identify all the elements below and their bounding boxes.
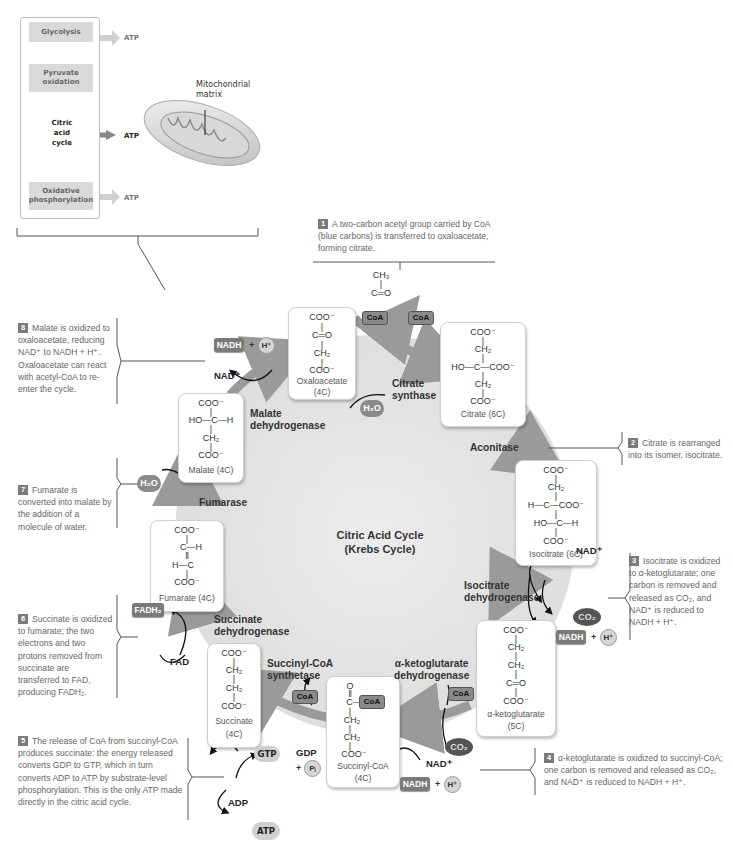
mitochondrial-matrix-label: Mitochondrial matrix	[196, 80, 266, 100]
step-number-badge: 1	[318, 219, 328, 229]
enzyme-citrate-synthase: Citrate synthase	[392, 378, 436, 402]
enzyme-line: synthetase	[267, 670, 333, 682]
nad-label: NAD⁺	[576, 545, 602, 556]
note-text: Malate is oxidized to oxaloacetate, redu…	[18, 323, 110, 394]
nad-label: NAD⁺	[214, 370, 240, 381]
note-text: The release of CoA from succinyl-CoA pro…	[18, 736, 182, 807]
plus-sign: +	[435, 779, 440, 789]
note-3: 3Isocitrate is oxidized to α-ketoglutara…	[629, 555, 729, 628]
chem-line: COO⁻	[179, 450, 243, 460]
chem-line: COO⁻	[309, 749, 399, 759]
overview-cycle-label: Citric acid cycle	[48, 118, 76, 148]
note-4: 4α-ketoglutarate is oxidized to succinyl…	[544, 752, 729, 789]
h-ion-badge: H⁺	[444, 776, 461, 793]
nadh-badge: NADH	[214, 338, 244, 352]
nadh-badge: NADH	[556, 630, 586, 644]
nad-label: NAD⁺	[426, 758, 452, 769]
released-coa-tag: CoA	[408, 311, 434, 325]
h-ion-badge: H⁺	[258, 337, 275, 354]
molecule-name: Oxaloacetate	[289, 376, 355, 387]
molecule-name: Succinyl-CoA	[327, 761, 399, 772]
chem-line: COO⁻	[208, 701, 260, 711]
step-number-badge: 7	[18, 485, 28, 495]
step-number-badge: 6	[18, 614, 28, 624]
atp-label: ATP	[124, 34, 139, 42]
note-1: 1A two-carbon acetyl group carried by Co…	[318, 218, 498, 255]
enzyme-akg-dehydrogenase: α-ketoglutarate dehydrogenase	[394, 658, 469, 682]
phosphate-badge: Pᵢ	[304, 760, 321, 777]
molecule-malate: COO⁻ | HO—C—H | CH₂ | COO⁻ Malate (4C)	[178, 393, 244, 483]
atp-label: ATP	[257, 826, 275, 836]
atp-burst-icon: ATP	[119, 29, 144, 46]
overview-glycolysis: Glycolysis	[29, 22, 93, 42]
enzyme-line: synthase	[392, 390, 436, 402]
coa-tag: CoA	[448, 687, 474, 701]
note-text: Succinate is oxidized to fumarate; the t…	[18, 614, 112, 697]
enzyme-line: Citrate	[392, 378, 436, 390]
water-badge: H₂O	[137, 475, 161, 492]
chem-line: C═O	[289, 330, 355, 340]
cycle-label-line: acid	[48, 128, 76, 138]
cycle-title: Citric Acid Cycle (Krebs Cycle)	[310, 528, 450, 556]
step-number-badge: 5	[18, 736, 28, 746]
note-text: α-ketoglutarate is oxidized to succinyl-…	[544, 753, 723, 787]
enzyme-line: Aconitase	[470, 442, 519, 454]
step-number-badge: 2	[628, 438, 638, 448]
enzyme-isocitrate-dehydrogenase: Isocitrate dehydrogenase	[464, 580, 539, 604]
molecule-succinate: COO⁻ | CH₂ | CH₂ | COO⁻ Succinate (4C)	[207, 643, 261, 748]
plus-sign: +	[591, 632, 596, 642]
molecule-citrate: COO⁻ | CH₂ | HO—C—COO⁻ | CH₂ | COO⁻ Citr…	[440, 322, 526, 427]
step-number-badge: 4	[544, 753, 554, 763]
molecule-alpha-ketoglutarate: COO⁻ | CH₂ | CH₂ | C═O | COO⁻ α-ketoglut…	[476, 620, 556, 737]
note-text: Fumarate is converted into malate by the…	[18, 485, 112, 532]
enzyme-succinate-dehydrogenase: Succinate dehydrogenase	[214, 614, 289, 638]
fadh2-badge: FADH₂	[132, 603, 164, 617]
h-ion-badge: H⁺	[600, 629, 617, 646]
atp-label: ATP	[124, 194, 139, 202]
note-text: Isocitrate is oxidized to α-ketoglutarat…	[629, 556, 720, 627]
enzyme-line: α-ketoglutarate	[394, 658, 469, 670]
note-5: 5The release of CoA from succinyl-CoA pr…	[18, 735, 183, 808]
adp-label: ADP	[228, 797, 248, 808]
molecule-name: Malate (4C)	[179, 465, 243, 476]
molecule-fumarate: COO⁻ | C—H ‖ H—C | COO⁻ Fumarate (4C)	[150, 520, 224, 612]
enzyme-line: Succinate	[214, 614, 289, 626]
water-badge: H₂O	[360, 400, 384, 417]
cycle-title-line2: (Krebs Cycle)	[310, 542, 450, 556]
note-text: Citrate is rearranged into its isomer, i…	[628, 438, 722, 460]
plus-sign: +	[296, 763, 301, 773]
atp-burst-icon: ATP	[119, 127, 144, 144]
chem-line: CH₂	[289, 348, 355, 358]
acetyl-coa-tag: CoA	[362, 311, 388, 325]
chem-line: C—	[309, 697, 399, 707]
note-8: 8Malate is oxidized to oxaloacetate, red…	[18, 322, 118, 395]
co2-badge: CO₂	[573, 608, 601, 626]
enzyme-line: Isocitrate	[464, 580, 539, 592]
molecule-name: Citrate (6C)	[441, 409, 525, 420]
atp-burst-icon: ATP	[252, 822, 280, 840]
carbon-count: (4C)	[289, 387, 355, 398]
enzyme-malate-dehydrogenase: Malate dehydrogenase	[250, 408, 325, 432]
atp-burst-icon: ATP	[119, 189, 144, 206]
coa-tag: CoA	[292, 690, 318, 704]
enzyme-line: dehydrogenase	[214, 626, 289, 638]
chem-line: C═O	[366, 289, 396, 298]
overview-pyruvate-oxidation: Pyruvate oxidation	[29, 64, 93, 92]
enzyme-line: Malate	[250, 408, 325, 420]
step-number-badge: 8	[18, 323, 28, 333]
molecule-succinyl-coa: O ‖ C— CoA | CH₂ | CH₂ | COO⁻ Succinyl-C…	[326, 676, 400, 788]
molecule-name: α-ketoglutarate	[477, 709, 555, 720]
enzyme-succinyl-coa-synthetase: Succinyl-CoA synthetase	[267, 658, 333, 682]
carbon-count: (4C)	[208, 729, 260, 740]
enzyme-line: dehydrogenase	[394, 670, 469, 682]
gdp-label: GDP	[296, 747, 317, 758]
mitochondrion-illustration	[136, 88, 267, 178]
gtp-label: GTP	[258, 749, 277, 759]
chem-line: COO⁻	[441, 396, 525, 406]
enzyme-line: dehydrogenase	[250, 420, 325, 432]
enzyme-line: Fumarase	[199, 497, 247, 509]
atp-label: ATP	[124, 132, 139, 140]
chem-line: COO⁻	[289, 365, 355, 375]
molecule-name: Succinate	[208, 716, 260, 727]
note-2: 2Citrate is rearranged into its isomer, …	[628, 437, 728, 461]
